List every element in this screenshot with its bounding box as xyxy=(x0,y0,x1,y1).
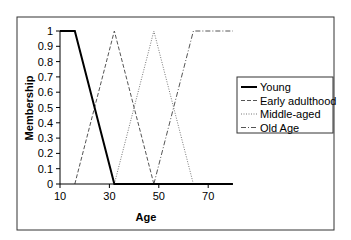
y-tick-label: 0.5 xyxy=(38,102,53,114)
y-tick-label: 0 xyxy=(47,178,53,190)
y-tick-label: 0.9 xyxy=(38,40,53,52)
legend-label: Young xyxy=(260,81,291,93)
y-tick-label: 0.1 xyxy=(38,163,53,175)
legend-label: Middle-aged xyxy=(260,108,321,120)
membership-chart: 00.10.20.30.40.50.60.70.80.91 10305070 A… xyxy=(0,0,351,240)
legend-label: Early adulthood xyxy=(260,95,336,107)
x-tick-label: 30 xyxy=(103,190,115,202)
legend-label: Old Age xyxy=(260,122,299,134)
x-tick-label: 70 xyxy=(202,190,214,202)
y-tick-label: 0.7 xyxy=(38,71,53,83)
y-tick-label: 0.8 xyxy=(38,56,53,68)
y-tick-label: 0.4 xyxy=(38,117,53,129)
y-tick-label: 0.6 xyxy=(38,86,53,98)
y-tick-label: 1 xyxy=(47,25,53,37)
y-axis-title: Membership xyxy=(23,75,35,140)
x-tick-label: 10 xyxy=(54,190,66,202)
y-tick-label: 0.2 xyxy=(38,147,53,159)
legend: YoungEarly adulthoodMiddle-agedOld Age xyxy=(237,77,336,134)
x-tick-label: 50 xyxy=(153,190,165,202)
x-axis-title: Age xyxy=(136,211,157,223)
y-tick-label: 0.3 xyxy=(38,132,53,144)
